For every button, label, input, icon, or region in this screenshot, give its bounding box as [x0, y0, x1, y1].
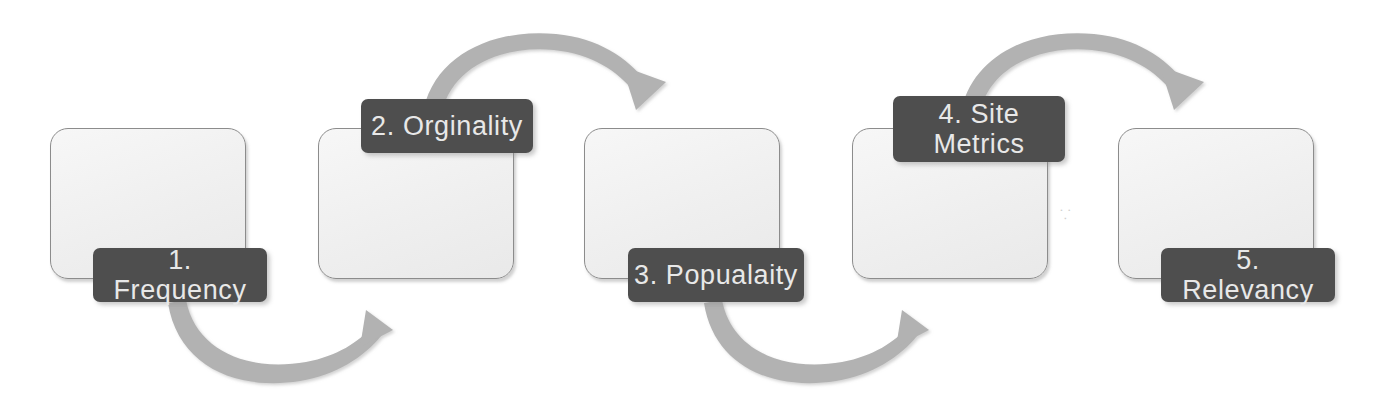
arrow-step1-to-step2: [168, 300, 393, 383]
diagram-canvas: 1. Frequency 2. Orginality 3. Popualaity…: [0, 0, 1374, 393]
scan-artifact-mark: ⸪: [1060, 205, 1071, 223]
step-label-3[interactable]: 3. Popualaity: [628, 248, 804, 302]
step-label-5[interactable]: 5. Relevancy: [1161, 248, 1335, 302]
step-label-1[interactable]: 1. Frequency: [93, 248, 267, 302]
arrow-step3-to-step4: [704, 300, 929, 383]
step-label-2[interactable]: 2. Orginality: [361, 99, 533, 153]
diagram-stage: 1. Frequency 2. Orginality 3. Popualaity…: [0, 0, 1374, 393]
step-label-4[interactable]: 4. Site Metrics: [893, 96, 1065, 162]
